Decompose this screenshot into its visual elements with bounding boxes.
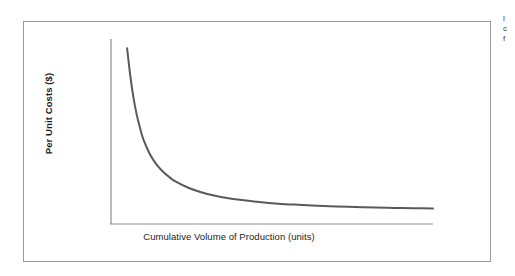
cropped-caption-text: l c f: [503, 14, 515, 44]
plot-area: [24, 22, 492, 263]
y-axis-title: Per Unit Costs ($): [43, 54, 54, 174]
x-axis-title: Cumulative Volume of Production (units): [24, 231, 434, 242]
caption-line-1: l: [503, 14, 515, 24]
experience-curve-chart: [24, 22, 492, 263]
cost-curve-line: [127, 48, 433, 208]
caption-line-3: f: [503, 34, 515, 44]
caption-line-2: c: [503, 24, 515, 34]
figure-frame: Per Unit Costs ($) Cumulative Volume of …: [23, 21, 491, 262]
